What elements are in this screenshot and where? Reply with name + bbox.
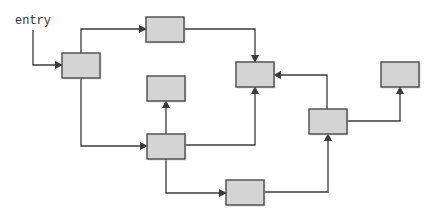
node-n6 <box>226 180 266 207</box>
edge-n7-to-n3 <box>274 75 327 109</box>
node-box <box>381 62 419 87</box>
edge-n1-to-n5 <box>81 78 147 146</box>
edge-n6-to-n7 <box>264 134 328 192</box>
node-n4 <box>147 76 187 103</box>
edge-n7-to-n8 <box>347 87 400 121</box>
node-n5 <box>147 134 187 161</box>
flow-diagram <box>0 0 435 216</box>
edge-n5-to-n3 <box>185 87 255 145</box>
node-box <box>146 17 184 42</box>
node-box <box>236 62 274 87</box>
edge-n1-to-n2 <box>81 29 146 53</box>
node-n7 <box>309 109 349 136</box>
node-n1 <box>62 53 102 80</box>
node-box <box>309 109 347 134</box>
edge-n5-to-n6 <box>166 159 226 193</box>
edge-entry-to-n1 <box>33 30 62 65</box>
node-box <box>62 53 100 78</box>
nodes-layer <box>62 17 421 207</box>
entry-label: entry <box>15 15 51 27</box>
node-n8 <box>381 62 421 89</box>
edge-n2-to-n3 <box>184 29 255 62</box>
node-n2 <box>146 17 186 44</box>
node-box <box>226 180 264 205</box>
node-box <box>147 76 185 101</box>
node-n3 <box>236 62 276 89</box>
node-box <box>147 134 185 159</box>
